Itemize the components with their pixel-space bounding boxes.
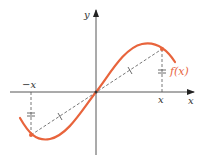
x-axis-label: x — [188, 95, 194, 106]
y-axis-label: y — [83, 9, 90, 20]
function-curve — [20, 43, 175, 139]
right-point — [160, 47, 164, 51]
pos-x-label: x — [158, 94, 164, 105]
left-point — [29, 133, 33, 137]
function-label: f(x) — [169, 65, 189, 78]
origin-point — [95, 91, 98, 94]
odd-function-diagram: y x −x x f(x) — [0, 0, 202, 158]
neg-x-label: −x — [22, 79, 36, 90]
equal-length-marks — [27, 67, 166, 120]
